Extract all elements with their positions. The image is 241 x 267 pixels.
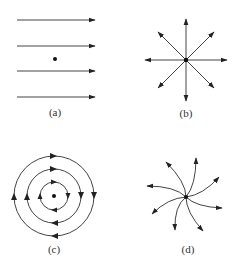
radial-arrow	[186, 32, 214, 60]
point-dot	[184, 58, 188, 62]
point-dot	[52, 194, 56, 198]
spiral-arrow	[186, 158, 196, 197]
spiral-arrow	[147, 186, 186, 197]
point-dot	[53, 57, 57, 61]
spiral-arrow	[186, 197, 222, 208]
vector-field-diagram: (a) (b) (c)	[0, 0, 241, 267]
spiral-arrow	[186, 197, 203, 231]
panel-label-b: (b)	[180, 107, 193, 120]
radial-arrow	[186, 60, 214, 88]
spiral-arrow	[175, 197, 186, 230]
radial-arrow	[158, 60, 186, 88]
point-dot	[184, 195, 188, 199]
panel-label-c: (c)	[48, 243, 61, 256]
spiral-arrow	[186, 177, 219, 197]
panel-label-d: (d)	[182, 243, 195, 256]
panel-label-a: (a)	[49, 106, 62, 119]
spiral-arrow	[152, 197, 186, 214]
spiral-arrow	[166, 162, 186, 197]
panel-d-spiral-field	[147, 158, 222, 231]
radial-arrow	[158, 32, 186, 60]
